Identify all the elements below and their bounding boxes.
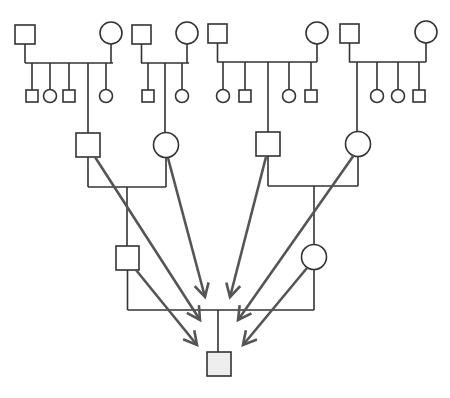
parent-female-symbol xyxy=(154,133,179,158)
inheritance-arrow xyxy=(238,155,354,320)
parent-female-symbol xyxy=(346,132,371,157)
grandmother-symbol xyxy=(415,21,437,43)
arrowhead-icon xyxy=(187,305,200,320)
grandfather-symbol xyxy=(132,25,151,44)
male-sibling xyxy=(63,90,75,102)
female-sibling xyxy=(392,90,405,103)
male-sibling xyxy=(142,90,154,102)
pedigree-diagram xyxy=(0,0,450,398)
male-sibling xyxy=(26,90,38,102)
grandfather-symbol xyxy=(208,24,227,43)
inheritance-arrow xyxy=(136,270,197,345)
parent-male-symbol xyxy=(76,133,100,157)
female-sibling xyxy=(100,90,113,103)
female-sibling xyxy=(44,90,57,103)
female-sibling xyxy=(371,90,384,103)
inheritance-arrow xyxy=(243,268,307,345)
female-sibling xyxy=(176,90,189,103)
grandfather-symbol xyxy=(15,25,35,44)
pedigree-canvas xyxy=(0,0,450,398)
proband-symbol xyxy=(207,352,231,376)
grandmother-symbol xyxy=(100,22,122,44)
grandfather-symbol xyxy=(340,24,359,43)
mother-symbol xyxy=(302,245,327,270)
male-sibling xyxy=(413,90,425,102)
inheritance-arrow xyxy=(230,157,266,297)
grandmother-symbol xyxy=(176,22,198,44)
inheritance-arrow xyxy=(168,158,205,297)
inheritance-arrow xyxy=(95,157,200,320)
female-sibling xyxy=(217,90,230,103)
male-sibling xyxy=(305,90,317,102)
parent-male-symbol xyxy=(256,132,280,156)
male-sibling xyxy=(239,90,251,102)
female-sibling xyxy=(283,90,296,103)
grandmother-symbol xyxy=(306,22,328,44)
father-symbol xyxy=(116,246,139,270)
